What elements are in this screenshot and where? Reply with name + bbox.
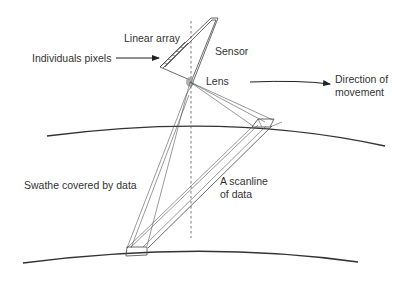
label-direction-line2: movement xyxy=(335,86,384,98)
lower-scanline-box xyxy=(126,247,147,256)
label-scanline-line1: A scanline xyxy=(220,175,268,187)
upper-ground-curve xyxy=(47,126,385,146)
label-scanline-line2: of data xyxy=(220,188,252,200)
label-individual-pixels: Individuals pixels xyxy=(32,52,111,64)
linear-array xyxy=(160,42,188,68)
lower-ground-curve xyxy=(23,251,358,263)
upper-scanline-box xyxy=(252,119,282,127)
swathe-rays xyxy=(127,82,193,248)
label-sensor: Sensor xyxy=(215,45,249,57)
sensor-body xyxy=(160,18,218,82)
label-direction-line1: Direction of xyxy=(335,73,388,85)
label-lens: Lens xyxy=(206,75,229,87)
label-swathe: Swathe covered by data xyxy=(24,179,137,191)
direction-arrow xyxy=(250,81,330,84)
label-linear-array: Linear array xyxy=(124,32,181,44)
pushbroom-scanner-diagram: Linear array Individuals pixels Sensor L… xyxy=(0,0,403,281)
